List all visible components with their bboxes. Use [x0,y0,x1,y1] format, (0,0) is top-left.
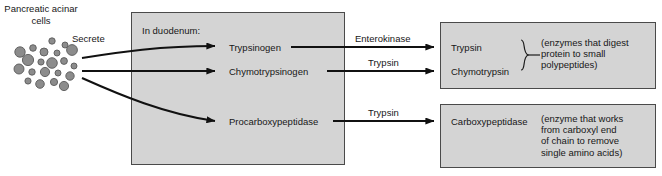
product-trypsin: Trypsin [451,42,482,53]
secrete-label: Secrete [72,33,105,44]
product-chymotrypsin: Chymotrypsin [451,66,509,77]
substrate-procarboxypeptidase: Procarboxypeptidase [229,116,318,127]
acinar-cell-cluster [14,38,77,91]
substrate-chymotrypsinogen: Chymotrypsinogen [229,66,308,77]
catalyst-trypsin-chymotrypsinogen: Trypsin [368,57,399,68]
description-carboxypeptidase-group: (enzyme that works from carboxyl end of … [541,113,623,158]
description-trypsin-group: (enzymes that digest protein to small po… [541,37,629,71]
substrate-trypsinogen: Trypsinogen [229,42,281,53]
catalyst-trypsin-procarboxypeptidase: Trypsin [368,107,399,118]
enzyme-activation-diagram: Pancreatic acinar cells Secrete [0,0,662,176]
catalyst-enterokinase: Enterokinase [355,33,410,44]
in-duodenum-heading: In duodenum: [142,25,200,36]
pancreatic-acinar-cells-label: Pancreatic acinar cells [4,3,78,26]
product-carboxypeptidase: Carboxypeptidase [451,116,528,127]
